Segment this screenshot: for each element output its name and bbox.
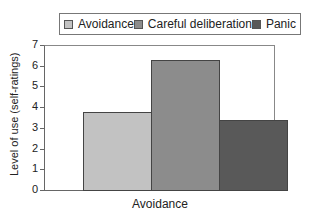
y-tick-label: 0	[26, 184, 38, 195]
legend-label: Panic	[266, 17, 296, 31]
y-tick-label: 6	[26, 60, 38, 71]
legend-item-careful-deliberation: Careful deliberation	[134, 17, 252, 31]
y-tick-label: 7	[26, 39, 38, 50]
y-axis-title: Level of use (self-ratings)	[8, 56, 20, 176]
legend-item-avoidance: Avoidance	[64, 17, 134, 31]
legend-swatch-careful-deliberation	[134, 20, 143, 29]
y-tick-label: 2	[26, 143, 38, 154]
legend-swatch-avoidance	[64, 20, 73, 29]
legend-label: Careful deliberation	[148, 17, 252, 31]
y-tick-label: 5	[26, 80, 38, 91]
chart-legend: Avoidance Careful deliberation Panic	[59, 13, 301, 35]
legend-swatch-panic	[252, 20, 261, 29]
y-tick-label: 4	[26, 101, 38, 112]
legend-item-panic: Panic	[252, 17, 296, 31]
x-axis-category-label: Avoidance	[44, 197, 276, 211]
bar-panic	[219, 120, 288, 191]
bar-careful-deliberation	[151, 60, 220, 192]
y-tick-label: 3	[26, 122, 38, 133]
y-tick-label: 1	[26, 163, 38, 174]
bar-avoidance	[83, 112, 152, 191]
legend-label: Avoidance	[78, 17, 134, 31]
